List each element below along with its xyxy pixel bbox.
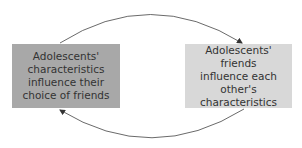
arrow-right-to-left [60,109,244,138]
node-friends-influence-characteristics: Adolescents' friends influence each othe… [185,44,292,108]
node-characteristics-influence-choice: Adolescents' characteristics influence t… [12,44,120,108]
arrow-left-to-right [60,15,242,44]
node-label: Adolescents' friends influence each othe… [189,44,288,109]
node-label: Adolescents' characteristics influence t… [23,50,110,102]
